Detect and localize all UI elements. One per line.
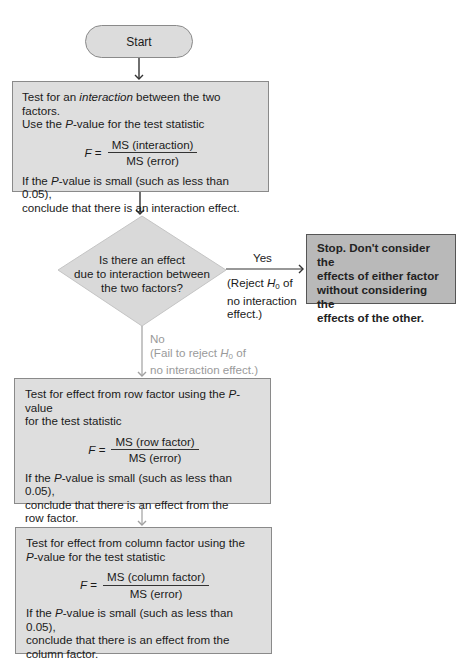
row-line1: Test for effect from row factor using th… [25, 387, 262, 414]
row-line4: conclude that there is an effect from th… [25, 498, 262, 512]
column-line1: Test for effect from column factor using… [26, 536, 263, 550]
column-line3: If the P-value is small (such as less th… [26, 606, 263, 633]
stop-box: Stop. Don't consider the effects of eith… [306, 234, 456, 304]
column-factor-test-box: Test for effect from column factor using… [15, 527, 272, 654]
no-note: No (Fail to reject H0 of no interaction … [150, 332, 258, 377]
interaction-line4: conclude that there is an interaction ef… [22, 201, 260, 215]
row-formula: F = MS (row factor)MS (error) [25, 435, 262, 465]
start-terminal: Start [85, 25, 193, 58]
start-label: Start [126, 35, 151, 49]
column-line4: conclude that there is an effect from th… [26, 633, 263, 647]
column-line2: P-value for the test statistic [26, 550, 263, 564]
column-formula: F = MS (column factor)MS (error) [26, 570, 263, 600]
yes-label: Yes [253, 251, 272, 265]
row-line3: If the P-value is small (such as less th… [25, 471, 262, 498]
interaction-line1: Test for an interaction between the two … [22, 90, 260, 117]
column-line5: column factor. [26, 647, 263, 661]
yes-note: (Reject H0 of no interaction effect.) [227, 276, 297, 321]
decision-text: Is there an effect due to interaction be… [62, 253, 222, 295]
row-line2: for the test statistic [25, 414, 262, 428]
interaction-test-box: Test for an interaction between the two … [12, 81, 269, 192]
row-factor-test-box: Test for effect from row factor using th… [14, 378, 271, 504]
row-line5: row factor. [25, 511, 262, 525]
interaction-line2: Use the P-value for the test statistic [22, 117, 260, 131]
interaction-formula: F = MS (interaction)MS (error) [22, 138, 260, 168]
interaction-line3: If the P-value is small (such as less th… [22, 174, 260, 201]
